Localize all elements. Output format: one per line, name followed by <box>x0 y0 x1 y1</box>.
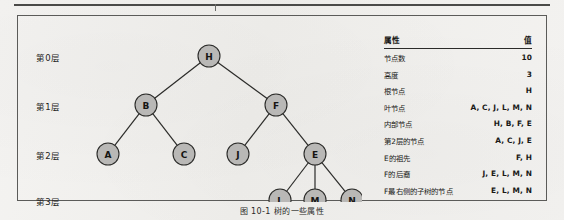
cell-value: F, H <box>462 149 532 166</box>
properties-table-panel: 属性 值 节点数10高度3根节点H叶节点A, C, J, L, M, N内部节点… <box>366 16 548 202</box>
cell-attribute: F最右侧的子树的节点 <box>384 182 462 199</box>
cell-attribute: E的祖先 <box>384 149 462 166</box>
tree-node-e: E <box>304 143 326 165</box>
tree-node-label-n: N <box>348 196 356 203</box>
tree-node-label-f: F <box>273 101 279 111</box>
tree-edge-f-j <box>245 114 270 146</box>
tree-node-group: HBFACJELMN <box>97 45 362 202</box>
tree-edge-group <box>115 62 345 191</box>
cell-value: J, E, L, M, N <box>462 165 532 182</box>
cell-attribute: 内部节点 <box>384 115 462 132</box>
properties-table-body: 节点数10高度3根节点H叶节点A, C, J, L, M, N内部节点H, B,… <box>384 49 532 199</box>
table-row: 节点数10 <box>384 49 532 66</box>
tree-edge-e-l <box>287 163 309 191</box>
tree-node-label-j: J <box>235 150 239 160</box>
tree-node-label-c: C <box>181 150 188 160</box>
tree-edge-h-b <box>155 63 201 98</box>
tree-node-f: F <box>265 94 287 116</box>
cell-value: 3 <box>462 66 532 83</box>
cell-attribute: 高度 <box>384 66 462 83</box>
cell-attribute: F的后裔 <box>384 165 462 182</box>
table-row: 叶节点A, C, J, L, M, N <box>384 99 532 116</box>
cell-attribute: 第2层的节点 <box>384 132 462 149</box>
cell-attribute: 节点数 <box>384 49 462 66</box>
tree-node-h: H <box>198 45 220 67</box>
properties-table: 属性 值 节点数10高度3根节点H叶节点A, C, J, L, M, N内部节点… <box>384 34 532 198</box>
tree-node-c: C <box>173 143 195 165</box>
table-row: F最右侧的子树的节点E, L, M, N <box>384 182 532 199</box>
cell-attribute: 根节点 <box>384 82 462 99</box>
tree-edge-b-c <box>153 114 178 146</box>
tree-edge-h-f <box>218 62 267 98</box>
table-row: 内部节点H, B, F, E <box>384 115 532 132</box>
tree-node-m: M <box>304 189 326 202</box>
cell-value: H, B, F, E <box>462 115 532 132</box>
tree-node-label-a: A <box>105 150 112 160</box>
table-row: 高度3 <box>384 66 532 83</box>
tree-node-label-l: L <box>277 196 283 203</box>
page-top-rule-tick <box>215 4 216 11</box>
table-row: 第2层的节点A, C, J, E <box>384 132 532 149</box>
figure-caption: 图 10-1 树的一些属性 <box>0 205 564 220</box>
cell-value: H <box>462 82 532 99</box>
table-header-row: 属性 值 <box>384 34 532 49</box>
table-row: E的祖先F, H <box>384 149 532 166</box>
header-attribute: 属性 <box>384 34 462 49</box>
cell-value: E, L, M, N <box>462 182 532 199</box>
properties-table-head: 属性 值 <box>384 34 532 49</box>
tree-edge-f-e <box>283 114 308 146</box>
page-top-rule <box>14 4 550 6</box>
tree-node-b: B <box>135 94 157 116</box>
tree-node-j: J <box>227 143 249 165</box>
cell-value: A, C, J, L, M, N <box>462 99 532 116</box>
tree-edge-e-n <box>322 163 345 192</box>
figure-frame: 第0层 第1层 第2层 第3层 HBFACJELMN 属性 值 节点数10高度3… <box>17 15 547 201</box>
header-value: 值 <box>462 34 532 49</box>
cell-attribute: 叶节点 <box>384 99 462 116</box>
tree-node-a: A <box>97 143 119 165</box>
tree-node-label-m: M <box>311 196 320 203</box>
table-row: F的后裔J, E, L, M, N <box>384 165 532 182</box>
tree-node-l: L <box>269 189 291 202</box>
tree-node-label-e: E <box>312 150 318 160</box>
tree-node-label-h: H <box>205 52 213 62</box>
tree-edge-b-a <box>115 114 140 146</box>
cell-value: A, C, J, E <box>462 132 532 149</box>
cell-value: 10 <box>462 49 532 66</box>
binary-tree-graphic: HBFACJELMN <box>18 16 362 202</box>
tree-node-label-b: B <box>143 101 150 111</box>
table-row: 根节点H <box>384 82 532 99</box>
tree-diagram-panel: 第0层 第1层 第2层 第3层 HBFACJELMN <box>18 16 362 202</box>
